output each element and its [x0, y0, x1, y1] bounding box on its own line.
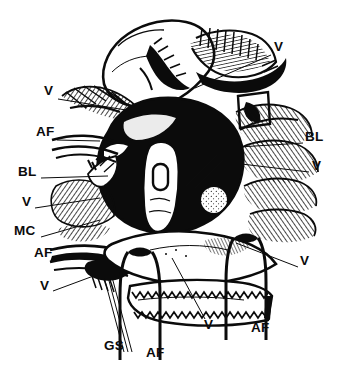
central-oval-aperture: [153, 164, 168, 190]
label-v-right-lower: V: [300, 254, 309, 268]
label-v-top-right: V: [274, 40, 283, 54]
central-elongated-structure: [143, 142, 179, 232]
label-af-bottom: AF: [146, 346, 165, 360]
label-v-upper-left: V: [44, 84, 53, 98]
label-mc-left: MC: [14, 224, 36, 238]
label-gs-bottom: GS: [104, 339, 124, 353]
label-af-left-lower: AF: [34, 246, 53, 260]
label-af-left-upper: AF: [36, 125, 55, 139]
label-bl-right: BL: [305, 130, 324, 144]
label-v-bottom: V: [204, 318, 213, 332]
serrated-lower-membrane: [128, 280, 272, 326]
label-bl-left: BL: [18, 165, 37, 179]
label-v-right-middle: V: [312, 159, 321, 173]
anatomical-figure: V V AF BL BL V V MC AF V V V GS AF AF: [0, 0, 339, 373]
label-v-lower-left: V: [40, 279, 49, 293]
illustration-canvas: [0, 0, 339, 373]
label-v-left-middle: V: [22, 195, 31, 209]
label-af-bottom-right: AF: [251, 321, 270, 335]
